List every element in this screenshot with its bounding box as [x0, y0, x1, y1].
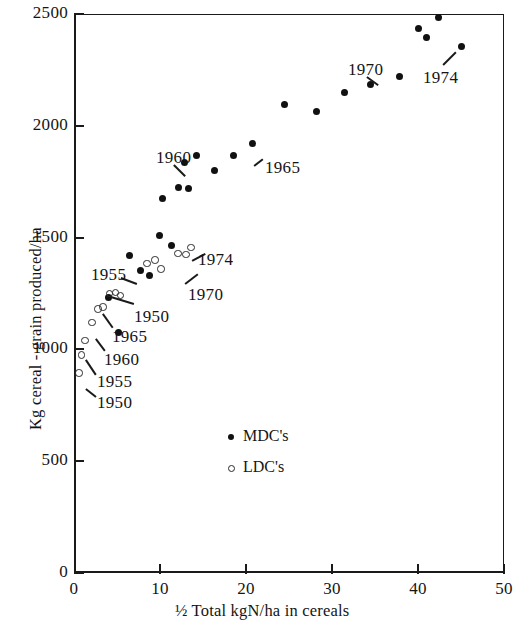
point-year-label: 1950 [97, 393, 132, 413]
y-tick-label: 2500 [0, 3, 68, 23]
plot-frame [74, 14, 504, 573]
point-year-label: 1960 [104, 350, 139, 370]
x-tick-label: 0 [54, 579, 94, 599]
data-point-ldc [143, 260, 151, 268]
data-point-mdc [396, 73, 403, 80]
data-point-ldc [99, 303, 107, 311]
point-year-label: 1970 [348, 60, 383, 80]
legend-marker-open-circle-icon [228, 465, 235, 472]
legend-label-mdc: MDC's [243, 427, 289, 445]
legend-label-ldc: LDC's [243, 458, 284, 476]
data-point-ldc [75, 369, 83, 377]
point-year-label: 1965 [265, 158, 300, 178]
point-year-label: 1974 [423, 68, 458, 88]
x-tick-label: 20 [226, 579, 266, 599]
data-point-ldc [174, 250, 182, 258]
data-point-mdc [313, 108, 320, 115]
point-year-label: 1960 [156, 148, 191, 168]
data-point-mdc [435, 14, 442, 21]
x-tick-mark [245, 564, 247, 574]
data-point-mdc [126, 252, 133, 259]
x-axis-title: ½ Total kgN/ha in cereals [175, 601, 349, 621]
data-point-mdc [458, 43, 465, 50]
x-tick-label: 50 [484, 579, 517, 599]
x-tick-label: 30 [312, 579, 352, 599]
data-point-mdc [423, 34, 430, 41]
point-year-label: 1970 [188, 285, 223, 305]
data-point-mdc [159, 195, 166, 202]
data-point-mdc [168, 242, 175, 249]
point-year-label: 1965 [112, 327, 147, 347]
x-tick-label: 40 [398, 579, 438, 599]
x-tick-mark [417, 564, 419, 574]
point-year-label: 1955 [97, 372, 132, 392]
data-point-mdc [156, 232, 163, 239]
data-point-ldc [88, 319, 96, 327]
y-tick-mark [74, 13, 84, 15]
data-point-ldc [157, 265, 165, 273]
data-point-mdc [137, 267, 144, 274]
data-point-ldc [182, 251, 190, 259]
data-point-ldc [151, 256, 159, 264]
y-tick-mark [74, 125, 84, 127]
scatter-chart-figure: 25002000150010005000 01020304050 1950195… [0, 0, 517, 636]
y-tick-mark [74, 348, 84, 350]
x-tick-mark [503, 564, 505, 574]
x-tick-mark [331, 564, 333, 574]
point-year-label: 1950 [134, 307, 169, 327]
point-year-label: 1974 [198, 250, 233, 270]
x-tick-mark [159, 564, 161, 574]
y-axis-title: Kg cereal - grain produced/ha [26, 227, 46, 430]
data-point-ldc [187, 244, 195, 252]
x-tick-label: 10 [140, 579, 180, 599]
legend-marker-filled-circle-icon [228, 434, 234, 440]
point-year-label: 1955 [91, 265, 126, 285]
y-tick-label: 500 [0, 450, 68, 470]
data-point-ldc [81, 337, 89, 345]
data-point-mdc [185, 185, 192, 192]
y-tick-mark [74, 237, 84, 239]
y-tick-label: 2000 [0, 115, 68, 135]
y-tick-mark [74, 572, 84, 574]
data-point-mdc [211, 167, 218, 174]
y-tick-mark [74, 460, 84, 462]
